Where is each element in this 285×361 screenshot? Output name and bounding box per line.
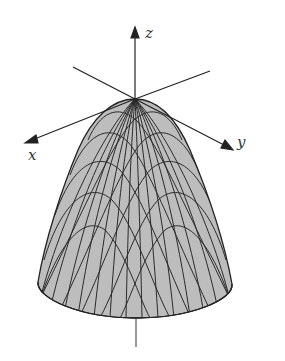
surface-body [38, 99, 232, 318]
y-axis-arrowhead-icon [221, 140, 233, 150]
x-axis-arrowhead-icon [25, 135, 38, 143]
z-axis-arrowhead-icon [131, 27, 139, 38]
y-axis-back-line [73, 67, 135, 99]
x-axis-label: x [28, 146, 37, 164]
y-axis-label: y [236, 133, 246, 151]
paraboloid-diagram: z x y [0, 0, 285, 361]
back-axes [73, 67, 210, 99]
paraboloid-surface [38, 99, 232, 318]
x-axis-back-line [135, 71, 210, 99]
z-axis-label: z [144, 24, 153, 42]
